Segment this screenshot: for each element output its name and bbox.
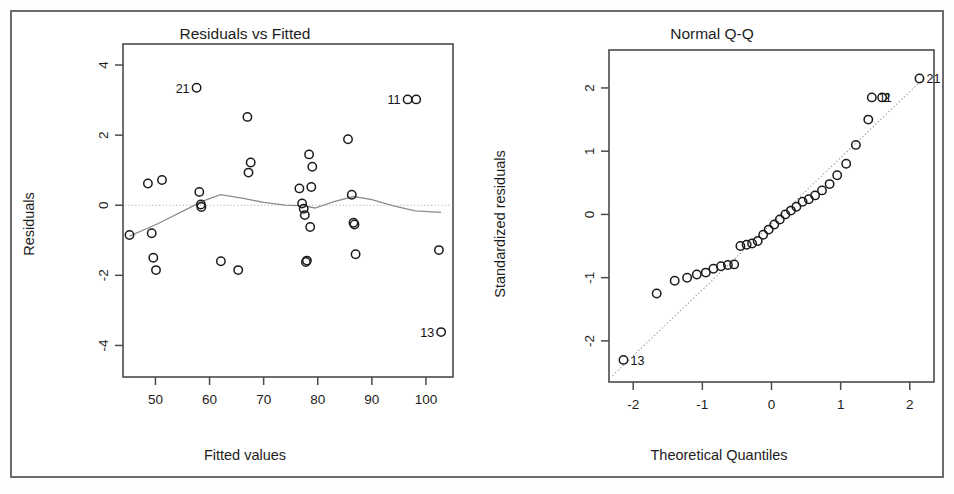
data-point: [403, 95, 411, 103]
data-point: [295, 184, 303, 192]
x-axis-tick-label: -2: [627, 397, 639, 412]
plot-box: [123, 44, 453, 377]
data-point: [818, 186, 826, 194]
data-point: [868, 93, 876, 101]
y-axis-label-standardized-residuals: Standardized residuals: [492, 150, 508, 298]
data-point: [195, 188, 203, 196]
data-point: [234, 266, 242, 274]
data-point: [825, 180, 833, 188]
data-point: [305, 150, 313, 158]
figure-page: Residuals vs Fitted Fitted values Residu…: [0, 0, 954, 494]
x-axis-tick-label: 2: [906, 397, 914, 412]
data-point: [833, 171, 841, 179]
lowess-smoother-line: [130, 195, 442, 236]
data-point: [306, 223, 314, 231]
plot-title-normal-qq: Normal Q-Q: [670, 25, 754, 42]
data-point: [351, 250, 359, 258]
data-point: [244, 168, 252, 176]
panel-residuals-vs-fitted: Residuals vs Fitted Fitted values Residu…: [12, 12, 479, 480]
data-point: [765, 225, 773, 233]
data-point: [217, 257, 225, 265]
data-point: [344, 135, 352, 143]
figure-frame: Residuals vs Fitted Fitted values Residu…: [10, 10, 944, 478]
data-point: [435, 246, 443, 254]
qq-plot-content: -2-1012210-1-21321112: [583, 50, 941, 412]
x-axis-tick-label: 70: [256, 392, 271, 407]
data-point: [653, 289, 661, 297]
data-point: [148, 229, 156, 237]
data-point: [852, 141, 860, 149]
y-axis-tick-label: 2: [583, 84, 598, 92]
data-point: [693, 270, 701, 278]
data-point: [144, 179, 152, 187]
x-axis-tick-label: 60: [202, 392, 217, 407]
data-point: [864, 115, 872, 123]
data-point: [842, 160, 850, 168]
y-axis-tick-label: 4: [97, 61, 112, 69]
data-point: [915, 74, 923, 82]
y-axis-label-residuals: Residuals: [21, 192, 37, 256]
data-point: [243, 113, 251, 121]
data-point: [348, 191, 356, 199]
data-point: [671, 277, 679, 285]
data-point: [759, 231, 767, 239]
y-axis-tick-label: 0: [583, 211, 598, 219]
normal-qq-plot: Normal Q-Q Theoretical Quantiles Standar…: [479, 12, 946, 480]
y-axis-tick-label: -4: [97, 339, 112, 351]
data-point: [149, 254, 157, 262]
point-label-2: 2: [884, 91, 891, 105]
x-axis-tick-label: 1: [837, 397, 845, 412]
x-axis-tick-label: 100: [415, 392, 438, 407]
point-label-21: 21: [926, 72, 940, 86]
point-label-11: 11: [388, 93, 401, 107]
residuals-plot-content: 5060708090100420-2-4211113: [97, 44, 454, 407]
point-label-13: 13: [631, 354, 645, 368]
point-label-13: 13: [420, 326, 434, 340]
data-point: [192, 84, 200, 92]
x-axis-label-fitted-values: Fitted values: [204, 447, 286, 463]
y-axis-tick-label: 2: [97, 131, 112, 139]
y-axis-tick-label: 0: [97, 201, 112, 209]
x-axis-tick-label: 80: [310, 392, 325, 407]
y-axis-tick-label: -2: [583, 335, 598, 347]
x-axis-tick-label: -1: [696, 397, 708, 412]
y-axis-tick-label: -2: [97, 269, 112, 281]
x-axis-label-theoretical-quantiles: Theoretical Quantiles: [650, 447, 787, 463]
data-point: [730, 260, 738, 268]
x-axis-tick-label: 50: [148, 392, 163, 407]
point-label-21: 21: [176, 82, 190, 96]
data-point: [437, 328, 445, 336]
y-axis-tick-label: -1: [583, 272, 598, 284]
data-point: [308, 163, 316, 171]
data-point: [412, 95, 420, 103]
residuals-vs-fitted-plot: Residuals vs Fitted Fitted values Residu…: [12, 12, 479, 480]
x-axis-tick-label: 0: [768, 397, 776, 412]
y-axis-tick-label: 1: [583, 147, 598, 155]
plot-title-residuals: Residuals vs Fitted: [180, 25, 311, 42]
panel-normal-qq: Normal Q-Q Theoretical Quantiles Standar…: [479, 12, 946, 480]
data-point: [683, 274, 691, 282]
data-point: [247, 158, 255, 166]
qq-reference-line: [612, 78, 923, 375]
data-point: [619, 356, 627, 364]
data-point: [158, 176, 166, 184]
data-point: [307, 183, 315, 191]
data-point: [152, 266, 160, 274]
x-axis-tick-label: 90: [364, 392, 379, 407]
